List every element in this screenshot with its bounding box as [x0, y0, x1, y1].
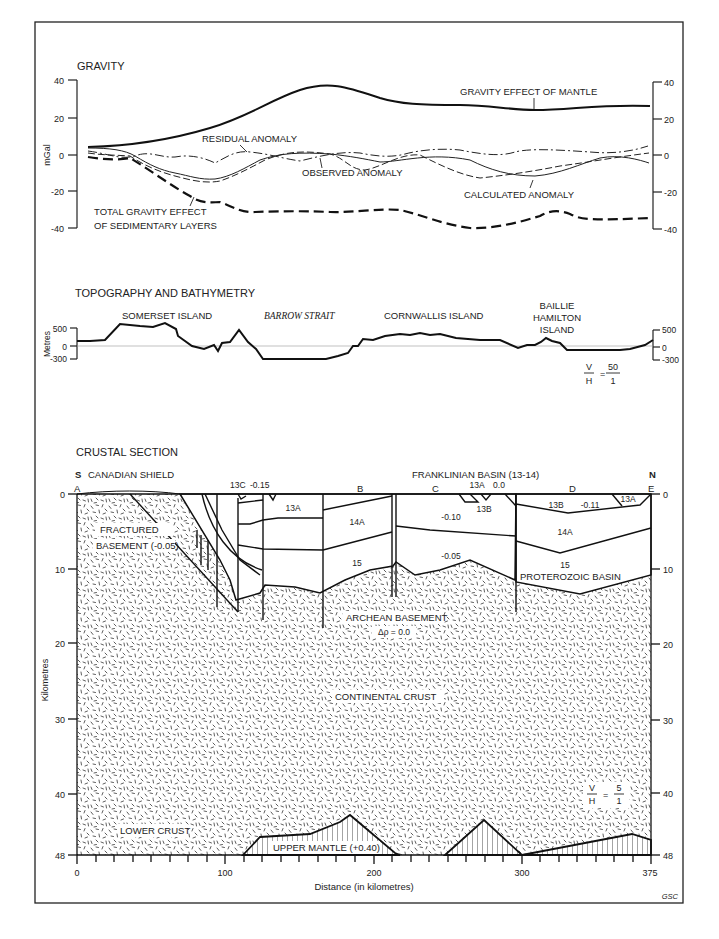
figure-canvas: GRAVITY 40 20 0 -20 -40 mGal 40 20 0 -20 — [0, 0, 719, 939]
topo-rtick-0: 0 — [662, 343, 667, 353]
topo-ve-den: 1 — [610, 376, 615, 386]
topo-ve-h: H — [586, 376, 593, 386]
unit-val-005: -0.05 — [441, 551, 461, 561]
gravity-ytick-20: 20 — [54, 114, 64, 124]
crust-rtick-30: 30 — [663, 716, 673, 726]
point-d: D — [569, 483, 576, 494]
crust-ytick-48: 48 — [55, 851, 65, 861]
unit-upper-mantle: UPPER MANTLE (+0.40) — [273, 842, 380, 853]
gravity-rtick-0: 0 — [664, 151, 669, 161]
crust-north-label: FRANKLINIAN BASIN (13-14) — [412, 469, 539, 480]
topo-ve-v: V — [586, 362, 592, 372]
unit-archean: ARCHEAN BASEMENT — [346, 612, 448, 623]
topo-ve-eq: = — [600, 369, 605, 379]
unit-fractured-2: BASEMENT (-0.05) — [96, 540, 179, 551]
topo-ytick-0: 0 — [62, 342, 67, 352]
place-somerset: SOMERSET ISLAND — [122, 310, 212, 321]
place-baillie-2: HAMILTON — [533, 312, 581, 323]
crust-xtick-300: 300 — [514, 868, 529, 878]
unit-13c: 13C — [230, 480, 246, 490]
unit-13a-1: 13A — [285, 503, 300, 513]
unit-13c-value: -0.15 — [250, 480, 270, 490]
place-baillie-3: ISLAND — [540, 324, 574, 335]
point-e: E — [648, 483, 654, 494]
unit-fractured-1: FRACTURED — [100, 524, 159, 535]
unit-14a-3: 14A — [557, 527, 572, 537]
crust-right-axis — [651, 494, 660, 855]
gravity-rtick-m40: -40 — [664, 225, 677, 235]
unit-val-011: -0.11 — [581, 500, 600, 510]
crust-ve-h: H — [589, 796, 596, 806]
unit-13b-3: 13B — [548, 500, 563, 510]
unit-15-1: 15 — [352, 558, 362, 568]
topo-ytick-m300: -300 — [50, 354, 67, 364]
gravity-left-axis — [68, 80, 77, 228]
topography-panel: TOPOGRAPHY AND BATHYMETRY SOMERSET ISLAN… — [42, 287, 679, 386]
crust-exaggeration: V H = 5 1 — [583, 782, 629, 808]
crust-rtick-48: 48 — [663, 851, 673, 861]
label-calculated: CALCULATED ANOMALY — [464, 189, 575, 200]
gravity-ylabel: mGal — [42, 144, 52, 166]
crust-xtick-200: 200 — [366, 868, 381, 878]
crust-title: CRUSTAL SECTION — [76, 446, 178, 458]
unit-val-010: -0.10 — [441, 512, 461, 522]
label-mantle: GRAVITY EFFECT OF MANTLE — [460, 86, 597, 97]
gravity-ytick-0: 0 — [59, 151, 64, 161]
place-barrow: BARROW STRAIT — [264, 311, 335, 321]
point-b: B — [357, 483, 363, 494]
crust-north: N — [649, 469, 656, 480]
unit-14a-1: 14A — [349, 517, 364, 527]
arrow-residual — [240, 145, 247, 152]
gravity-ytick-m40: -40 — [51, 224, 64, 234]
crust-xtick-375: 375 — [642, 868, 657, 878]
crust-ve-num: 5 — [616, 783, 621, 793]
crust-rtick-0: 0 — [663, 490, 668, 500]
residual-anomaly-curve — [88, 146, 648, 163]
crust-ytick-30: 30 — [55, 715, 65, 725]
crust-ytick-10: 10 — [55, 565, 65, 575]
crust-south-label: CANADIAN SHIELD — [88, 469, 174, 480]
gravity-rtick-40: 40 — [664, 78, 674, 88]
topo-rtick-500: 500 — [662, 325, 676, 335]
crust-left-axis — [68, 494, 77, 855]
topo-ylabel: Metres — [42, 331, 52, 357]
topo-ve-num: 50 — [608, 362, 618, 372]
crust-ytick-20: 20 — [55, 639, 65, 649]
place-cornwallis: CORNWALLIS ISLAND — [384, 310, 484, 321]
crustal-panel: CRUSTAL SECTION S CANADIAN SHIELD FRANKL… — [40, 446, 673, 892]
topo-left-axis — [70, 328, 77, 359]
crust-rtick-10: 10 — [663, 565, 673, 575]
unit-13a-2: 13A — [469, 480, 484, 490]
crust-xtick-0: 0 — [74, 868, 79, 878]
label-sediment-2: OF SEDIMENTARY LAYERS — [94, 220, 217, 231]
unit-13b-2: 13B — [476, 504, 491, 514]
crust-rtick-40: 40 — [663, 789, 673, 799]
gravity-title: GRAVITY — [77, 60, 125, 72]
gravity-panel: GRAVITY 40 20 0 -20 -40 mGal 40 20 0 -20 — [42, 60, 677, 235]
crust-xtick-100: 100 — [217, 868, 232, 878]
arrow-sediment — [190, 197, 194, 206]
label-residual: RESIDUAL ANOMALY — [202, 133, 298, 144]
place-baillie-1: BAILLIE — [540, 300, 575, 311]
crust-ytick-40: 40 — [55, 790, 65, 800]
topo-rtick-m300: -300 — [662, 355, 679, 365]
crust-south: S — [75, 469, 81, 480]
gravity-right-axis — [653, 82, 662, 229]
unit-continental: CONTINENTAL CRUST — [335, 691, 437, 702]
unit-0-0: 0.0 — [493, 480, 505, 490]
crust-bottom-axis — [77, 855, 651, 864]
unit-13a-3: 13A — [620, 494, 635, 504]
crust-ytick-0: 0 — [60, 490, 65, 500]
gravity-ytick-40: 40 — [54, 76, 64, 86]
crust-ve-v: V — [589, 783, 595, 793]
topo-right-axis — [653, 330, 660, 360]
unit-proterozoic: PROTEROZOIC BASIN — [520, 571, 621, 582]
gsc-credit: GSC — [662, 892, 679, 901]
unit-archean-rho: Δρ = 0.0 — [378, 627, 410, 637]
crust-ylabel: Kilometres — [40, 658, 50, 701]
label-observed: OBSERVED ANOMALY — [302, 167, 403, 178]
crust-rtick-20: 20 — [663, 640, 673, 650]
unit-15-3: 15 — [560, 560, 570, 570]
topo-ytick-500: 500 — [53, 324, 67, 334]
gravity-rtick-m20: -20 — [664, 188, 677, 198]
